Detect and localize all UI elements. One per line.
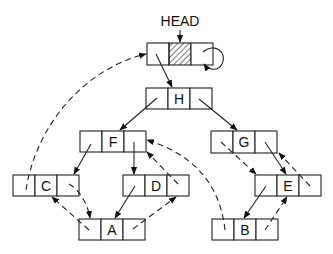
node-D: D bbox=[123, 175, 189, 196]
node-head bbox=[147, 43, 213, 65]
node-G: G bbox=[211, 131, 277, 153]
node-label: D bbox=[151, 178, 161, 194]
node-label: G bbox=[239, 134, 250, 150]
node-label: B bbox=[240, 222, 249, 238]
node-F: F bbox=[80, 131, 146, 152]
head-label: HEAD bbox=[161, 13, 200, 29]
hatched-cell bbox=[169, 43, 191, 65]
node-label: F bbox=[109, 134, 118, 150]
threaded-tree-diagram: HEAD H F G C D bbox=[0, 0, 333, 254]
node-C: C bbox=[13, 175, 79, 196]
node-E: E bbox=[255, 175, 321, 196]
node-B: B bbox=[212, 219, 278, 240]
head-pointer: HEAD bbox=[161, 13, 200, 42]
node-label: C bbox=[41, 178, 51, 194]
node-label: H bbox=[174, 91, 184, 107]
node-label: A bbox=[107, 222, 117, 238]
node-label: E bbox=[283, 178, 292, 194]
